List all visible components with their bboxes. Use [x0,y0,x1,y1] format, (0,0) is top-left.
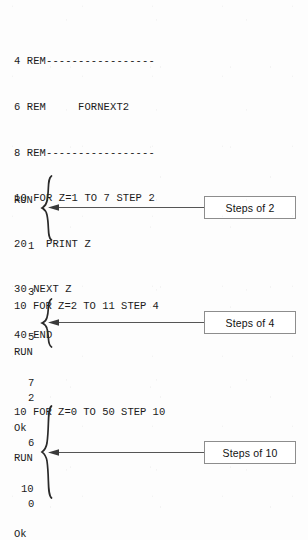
callout-label: Steps of 2 [226,202,275,214]
callout-label: Steps of 10 [223,447,278,459]
callout-steps-of-4: Steps of 4 [204,311,296,334]
program-line: 8 REM----------------- [14,146,155,161]
callout-steps-of-2: Steps of 2 [204,196,296,219]
run-block-3: 10 FOR Z=0 TO 50 STEP 10 RUN 0 10 20 30 … [14,375,165,540]
output-value: 0 [14,497,165,512]
run-label: RUN [14,193,39,208]
callout-steps-of-10: Steps of 10 [204,441,296,464]
program-line: 4 REM----------------- [14,54,155,69]
output-value: 1 [14,239,39,254]
edit-line: 10 FOR Z=0 TO 50 STEP 10 [14,405,165,420]
run-label: RUN [14,345,159,360]
program-line: 6 REM FORNEXT2 [14,100,155,115]
run-label: RUN [14,451,165,466]
callout-label: Steps of 4 [226,317,275,329]
edit-line: 10 FOR Z=2 TO 11 STEP 4 [14,299,159,314]
page-canvas: 4 REM----------------- 6 REM FORNEXT2 8 … [0,0,308,540]
